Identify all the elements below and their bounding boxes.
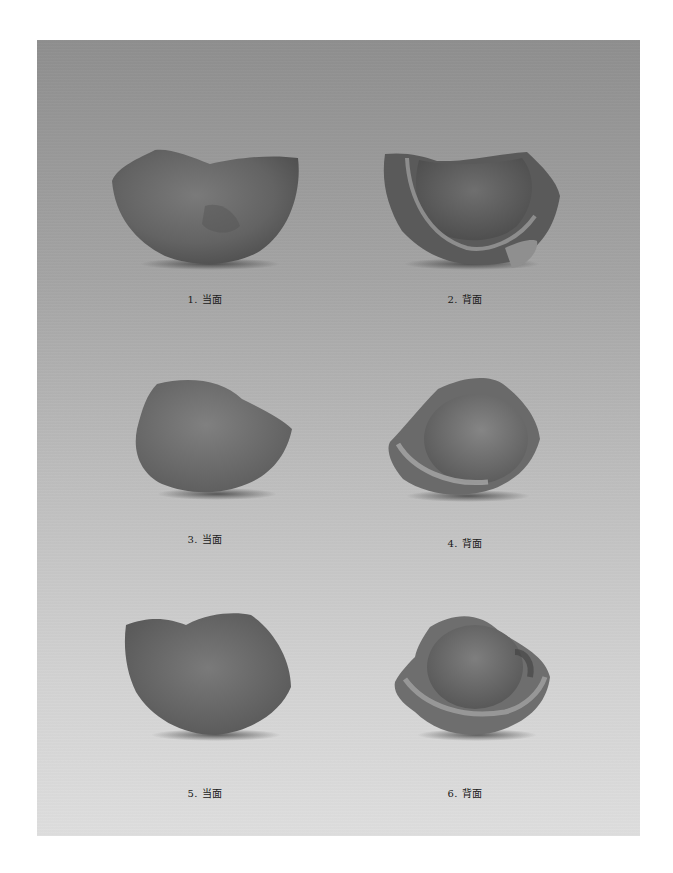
photo-plate: 1. 当面 2. 背面	[37, 40, 640, 836]
artifact-photo-6-back	[385, 607, 565, 742]
artifact-photo-4-back	[378, 374, 558, 504]
artifact-photo-1-front	[110, 146, 300, 271]
artifact-photo-2-back	[377, 146, 562, 271]
figure-label-2: 2. 背面	[405, 291, 525, 306]
figure-label-4: 4. 背面	[405, 535, 525, 550]
figure-label-6: 6. 背面	[405, 785, 525, 800]
figure-label-1: 1. 当面	[145, 291, 265, 306]
artifact-photo-5-front	[121, 607, 306, 742]
figure-label-5: 5. 当面	[145, 785, 265, 800]
figure-label-3: 3. 当面	[145, 531, 265, 546]
artifact-photo-3-front	[127, 374, 302, 504]
